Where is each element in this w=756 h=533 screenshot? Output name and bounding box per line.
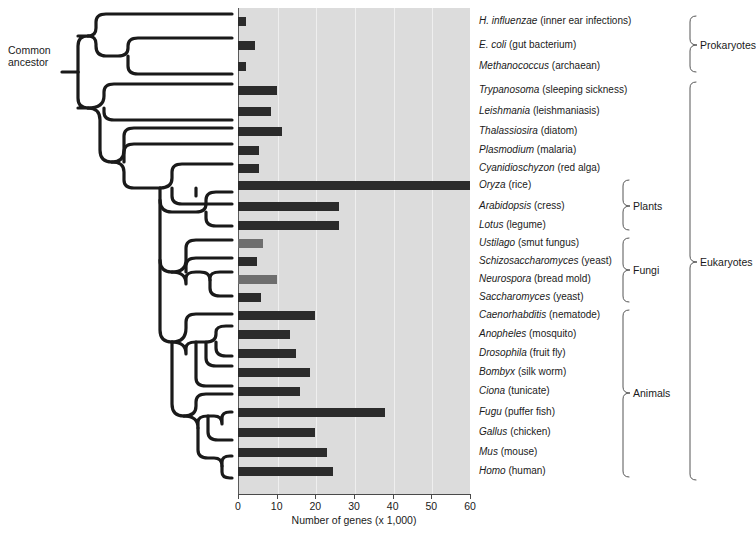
species-common-name: (smut fungus) [515, 237, 579, 248]
branch-chordate-backbone [172, 342, 184, 416]
brace-animals [623, 310, 630, 477]
species-common-name: (sleeping sickness) [539, 84, 627, 95]
bar-methanococcus [238, 62, 246, 71]
species-common-name: (chicken) [507, 426, 550, 437]
branch-ustilago [172, 240, 232, 272]
species-genus: Bombyx [479, 366, 515, 377]
species-common-name: (malaria) [534, 144, 576, 155]
x-tick-label-20: 20 [309, 500, 321, 512]
species-genus: Mus [479, 446, 498, 457]
bar-cyanidioschyzon [238, 164, 259, 173]
common-ancestor-label: Common ancestor [8, 44, 51, 68]
brace-prokaryotes [690, 16, 697, 72]
species-common-name: (bread mold) [531, 273, 590, 284]
species-common-name: (rice) [506, 179, 532, 190]
x-tick-label-60: 60 [464, 500, 476, 512]
species-label-neurospora: Neurospora (bread mold) [479, 274, 591, 284]
x-tick-label-50: 50 [425, 500, 437, 512]
species-label-trypanosoma: Trypanosoma (sleeping sickness) [479, 85, 627, 95]
brace-fungi [623, 238, 630, 302]
species-genus: Anopheles [479, 328, 526, 339]
bar-lotus [238, 221, 339, 230]
group-label-animals: Animals [633, 387, 670, 399]
branch-plasmodium [124, 144, 232, 162]
branch-insect-node [172, 326, 232, 354]
species-common-name: (mouse) [498, 446, 537, 457]
species-label-e-coli: E. coli (gut bacterium) [479, 40, 576, 50]
species-genus: Arabidopsis [479, 200, 531, 211]
branch-cyanidioschyzon-node [112, 162, 160, 188]
group-label-eukaryotes: Eukaryotes [700, 256, 753, 268]
bar-thalassiosira [238, 127, 282, 136]
chart-plot-area [238, 8, 470, 494]
species-label-gallus: Gallus (chicken) [479, 427, 551, 437]
species-label-saccharomyces: Saccharomyces (yeast) [479, 292, 583, 302]
species-label-homo: Homo (human) [479, 466, 546, 476]
bar-leishmania [238, 107, 271, 116]
x-tick-20 [315, 494, 316, 499]
bar-homo [238, 467, 333, 476]
species-common-name: (legume) [503, 219, 545, 230]
species-genus: Ustilago [479, 237, 515, 248]
species-genus: Fugu [479, 406, 502, 417]
species-genus: Saccharomyces [479, 291, 550, 302]
species-common-name: (archaean) [549, 60, 600, 71]
bar-mus [238, 448, 327, 457]
branch-cyanidioschyzon [160, 164, 232, 188]
species-label-thalassiosira: Thalassiosira (diatom) [479, 126, 577, 136]
species-common-name: (inner ear infections) [537, 15, 631, 26]
species-label-caenorhabditis: Caenorhabditis (nematode) [479, 310, 600, 320]
species-label-ustilago: Ustilago (smut fungus) [479, 238, 579, 248]
group-label-prokaryotes: Prokaryotes [700, 39, 756, 51]
species-genus: Lotus [479, 219, 503, 230]
species-common-name: (mosquito) [526, 328, 576, 339]
branch-ciona [184, 394, 232, 416]
x-tick-60 [470, 494, 471, 499]
bar-drosophila [238, 349, 296, 358]
branch-arabidopsis [160, 188, 232, 212]
species-genus: H. influenzae [479, 15, 537, 26]
branch-animals-backbone [160, 260, 172, 342]
species-label-fugu: Fugu (puffer fish) [479, 407, 555, 417]
species-common-name: (yeast) [550, 291, 583, 302]
gridline-20 [316, 8, 317, 494]
bar-saccharomyces [238, 293, 261, 302]
species-label-oryza: Oryza (rice) [479, 180, 531, 190]
species-genus: Leishmania [479, 105, 530, 116]
branch-fugu [184, 412, 232, 428]
x-tick-label-40: 40 [387, 500, 399, 512]
species-label-bombyx: Bombyx (silk worm) [479, 367, 566, 377]
species-common-name: (yeast) [578, 255, 611, 266]
species-label-methanococcus: Methanococcus (archaean) [479, 61, 600, 71]
branch-h-influenzae [88, 14, 232, 36]
bar-fugu [238, 408, 385, 417]
branch-root-lower [78, 72, 88, 108]
species-common-name: (cress) [531, 200, 564, 211]
branch-bombyx [196, 342, 232, 386]
branch-caenorhabditis [172, 314, 232, 342]
species-common-name: (silk worm) [515, 366, 566, 377]
branch-lotus [206, 212, 232, 226]
species-label-mus: Mus (mouse) [479, 447, 537, 457]
x-tick-50 [431, 494, 432, 499]
x-tick-30 [354, 494, 355, 499]
bar-h-influenzae [238, 17, 246, 26]
species-genus: Oryza [479, 179, 506, 190]
species-genus: Caenorhabditis [479, 309, 546, 320]
bar-schizosaccharomyces [238, 257, 257, 266]
species-genus: Schizosaccharomyces [479, 255, 578, 266]
branch-thalassiosira [112, 128, 232, 162]
x-axis-title: Number of genes (x 1,000) [238, 514, 470, 526]
branch-methanococcus [128, 56, 232, 74]
branch-fungi-backbone [160, 200, 172, 272]
gridline-50 [432, 8, 433, 494]
species-genus: Neurospora [479, 273, 531, 284]
bar-anopheles [238, 330, 290, 339]
species-common-name: (puffer fish) [502, 406, 555, 417]
gridline-10 [278, 8, 279, 494]
x-tick-40 [393, 494, 394, 499]
branch-gallus [208, 416, 232, 440]
bar-ciona [238, 387, 300, 396]
species-common-name: (red alga) [555, 162, 601, 173]
